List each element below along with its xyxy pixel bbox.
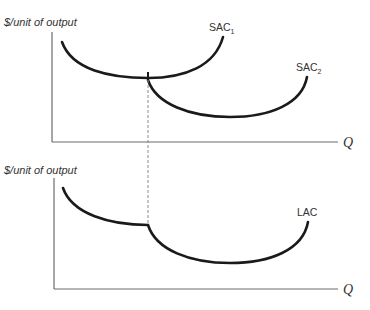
sac1-curve (62, 37, 223, 78)
lac-label: LAC (297, 206, 318, 218)
sac1-label: SAC1 (209, 21, 235, 35)
top-y-axis-label: $/unit of output (3, 16, 78, 28)
bottom-panel: $/unit of output Q LAC (3, 164, 353, 297)
sac2-curve (148, 77, 307, 117)
bottom-y-axis-label: $/unit of output (3, 164, 78, 176)
bottom-x-axis-label: Q (343, 282, 353, 297)
top-panel: $/unit of output Q SAC1 SAC2 (3, 16, 353, 150)
top-x-axis-label: Q (343, 135, 353, 150)
cost-curves-diagram: $/unit of output Q SAC1 SAC2 $/unit of o… (0, 0, 370, 310)
sac2-label: SAC2 (296, 61, 322, 75)
lac-curve (63, 188, 308, 263)
